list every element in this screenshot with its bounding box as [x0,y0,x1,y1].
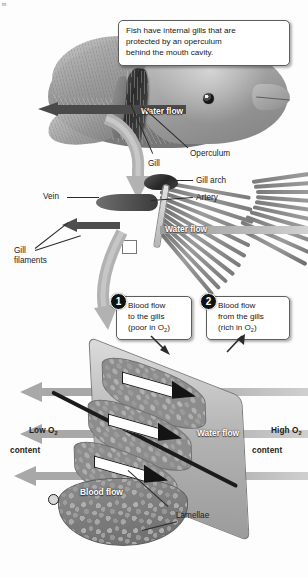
callout-2-line3: (rich in O2) [218,323,285,334]
water-flow-label-gill: Water flow [165,224,207,234]
callout-1-line3-prefix: (poor in O [128,323,164,332]
callout-box-2: Blood flow from the gills (rich in O2) [206,296,290,340]
lamellae-label: Lamellae [176,511,209,521]
callout-1-line2: to the gills [128,312,187,323]
callout-2-line2: from the gills [218,312,285,323]
filament-cap-cells [58,478,188,546]
operculum-label: Operculum [190,149,230,159]
callout-1-number: 1 [116,296,122,307]
gill-arch-label: Gill arch [196,176,226,186]
gill-arch-structure [144,174,178,190]
vein-label: Vein [43,192,59,202]
callout-2-line3-prefix: (rich in O [218,323,251,332]
intro-text-box: Fish have internal gills that are protec… [118,20,290,66]
gill-arch-leader [163,180,193,181]
low-o2-label: Low O2 content [10,416,58,456]
high-o2-label: High O2 content [252,416,302,456]
artery-label: Artery [196,193,218,203]
callout-1-number-badge: 1 [110,293,127,310]
water-flow-label-lamellae: Water flow [197,428,239,438]
intro-text: Fish have internal gills that are protec… [126,26,282,58]
low-o2-sub: 2 [55,430,58,436]
low-o2-line1: Low O2 [10,416,58,446]
blood-vessel-rod-end [48,494,59,505]
panel-gill-filaments: Water flow Gill arch Artery Vein Gill fi… [0,168,308,288]
callout-1-line3-suffix: ) [167,323,170,332]
low-o2-line2: content [10,446,58,456]
callout-2-line1: Blood flow [218,301,285,312]
vein-leader [67,197,99,198]
vein-vessel [96,194,158,211]
callout-2-number: 2 [206,296,212,307]
filament-bottom-cap [58,478,188,546]
high-o2-line1: High O2 [252,416,302,446]
figure-canvas: m Water flow [0,0,308,577]
fish-eye [203,93,214,104]
gill-filaments-label-line2: filaments [14,256,47,266]
callout-1-line3: (poor in O2) [128,323,187,334]
callout-2-line3-suffix: ) [254,323,257,332]
high-o2-line2: content [252,446,302,456]
low-o2-prefix: Low O [29,426,55,435]
callout-1-line1: Blood flow [128,301,187,312]
blood-flow-label: Blood flow [80,487,123,497]
panel-lamellae: Water flow Blood flow Low O2 content Hig… [0,352,308,562]
corner-mark: m [2,1,6,7]
high-o2-sub: 2 [298,430,301,436]
high-o2-prefix: High O [271,426,298,435]
callout-2-number-badge: 2 [200,293,217,310]
gill-filaments-label-line1: Gill [14,246,26,256]
